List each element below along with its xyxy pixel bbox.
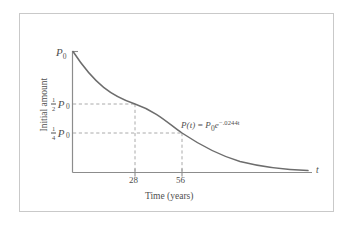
half-p-variable: P xyxy=(58,99,65,110)
x-axis-title: Time (years) xyxy=(145,192,193,202)
equation-annotation: P(t) = P0e−.0244t xyxy=(181,121,240,130)
equation-exponent: −.0244t xyxy=(219,119,240,126)
p0-subscript: 0 xyxy=(63,52,67,61)
quarter-p-variable: P xyxy=(58,128,65,139)
y-axis-label-half-p0: 1 2 P0 xyxy=(51,97,70,112)
equation-equals: = xyxy=(195,120,205,130)
figure-container: P0 1 2 P0 1 4 P0 28 56 Time (years) Init… xyxy=(0,0,354,227)
quarter-p-subscript: 0 xyxy=(66,132,70,140)
y-axis-label-quarter-p0: 1 4 P0 xyxy=(51,126,70,141)
p0-variable: P xyxy=(56,46,63,58)
x-tick-label-28: 28 xyxy=(129,176,138,185)
equation-rhs-subscript: 0 xyxy=(211,124,215,133)
fraction-numerator: 1 xyxy=(51,126,56,134)
fraction-one-quarter: 1 4 xyxy=(51,126,56,141)
fraction-denominator: 4 xyxy=(51,134,56,141)
fraction-numerator: 1 xyxy=(51,97,56,105)
x-tick-label-56: 56 xyxy=(176,176,185,185)
half-p-subscript: 0 xyxy=(66,103,70,111)
y-axis-title: Initial amount xyxy=(40,55,50,155)
decay-curve xyxy=(73,52,308,171)
y-axis-label-p0: P0 xyxy=(56,47,66,58)
fraction-one-half: 1 2 xyxy=(51,97,56,112)
fraction-denominator: 2 xyxy=(51,105,56,112)
t-axis-label: t xyxy=(316,166,319,176)
